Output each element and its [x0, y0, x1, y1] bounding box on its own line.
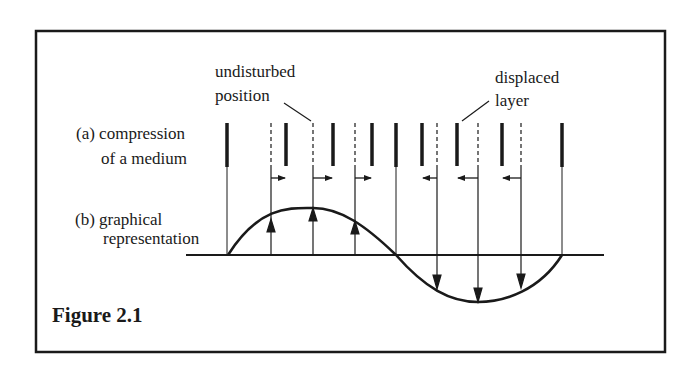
arrow-down-icon [517, 274, 525, 288]
figure-container: (a) compression of a medium (b) graphica… [0, 0, 685, 367]
medium-layers [227, 123, 562, 255]
compression-wave-diagram: (a) compression of a medium (b) graphica… [0, 0, 685, 367]
undisturbed-leader-line [284, 103, 311, 121]
label-a-line1: (a) compression [76, 124, 186, 143]
displaced-label-line1: displaced [495, 68, 560, 87]
callout-displaced: displaced layer [462, 68, 560, 121]
arrow-up-icon [309, 208, 317, 221]
displaced-label-line2: layer [495, 91, 529, 110]
figure-caption: Figure 2.1 [52, 303, 143, 327]
arrow-up-icon [267, 219, 275, 232]
label-a-line2: of a medium [101, 149, 187, 168]
arrow-down-icon [433, 275, 441, 289]
callout-undisturbed: undisturbed position [215, 62, 311, 121]
graph [186, 168, 604, 302]
undisturbed-label-line2: position [215, 86, 270, 105]
label-b-line2: representation [103, 229, 200, 248]
arrow-down-icon [474, 288, 482, 302]
displaced-leader-line [462, 101, 489, 121]
row-labels: (a) compression of a medium (b) graphica… [75, 124, 200, 248]
label-b-line1: (b) graphical [75, 210, 163, 229]
undisturbed-label-line1: undisturbed [215, 62, 296, 81]
